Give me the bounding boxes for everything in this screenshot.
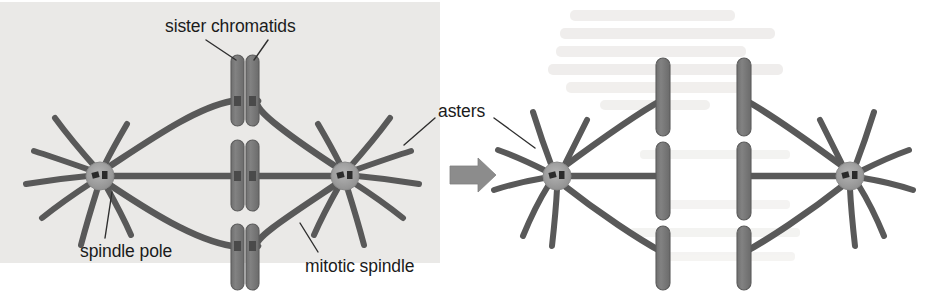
centriole-b bbox=[559, 171, 565, 179]
centriole-b bbox=[102, 171, 108, 179]
kinetochore-right bbox=[249, 241, 256, 251]
sister-chromatid-right bbox=[246, 55, 259, 126]
label-spindle-pole: spindle pole bbox=[80, 243, 172, 261]
label-mitotic-spindle: mitotic spindle bbox=[305, 258, 414, 276]
spindle-pole-left bbox=[86, 162, 114, 190]
label-asters: asters bbox=[438, 103, 485, 121]
kinetochore-left bbox=[234, 171, 241, 181]
centriole-b bbox=[852, 171, 858, 179]
kinetochore-left bbox=[234, 241, 241, 251]
chromatid-top bbox=[656, 58, 670, 136]
kinetochore-left bbox=[234, 96, 241, 106]
chromatid-middle bbox=[656, 142, 670, 220]
spindle-pole-daughter-right bbox=[836, 162, 864, 190]
sister-chromatid-left bbox=[231, 55, 244, 126]
daughter-left-chromatids bbox=[656, 58, 670, 290]
spindle-pole-right bbox=[331, 162, 359, 190]
figure-canvas: sister chromatids spindle pole mitotic s… bbox=[0, 0, 940, 295]
chromatid-bottom bbox=[737, 226, 751, 290]
label-sister-chromatids: sister chromatids bbox=[165, 18, 296, 36]
kinetochore-right bbox=[249, 96, 256, 106]
daughter-right-chromatids bbox=[737, 58, 751, 290]
centriole-b bbox=[347, 171, 353, 179]
sister-chromatid-left bbox=[231, 224, 244, 290]
sister-chromatid-right bbox=[246, 224, 259, 290]
kinetochore-right bbox=[249, 171, 256, 181]
spindle-pole-daughter-left bbox=[543, 162, 571, 190]
chromatid-bottom bbox=[656, 226, 670, 290]
chromatid-middle bbox=[737, 142, 751, 220]
chromatid-top bbox=[737, 58, 751, 136]
